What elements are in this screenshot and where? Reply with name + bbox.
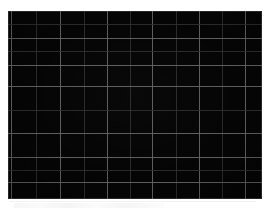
gridline-vertical-minor (222, 11, 223, 199)
gridline-horizontal-major (8, 38, 262, 39)
bottom-margin-smudge (14, 203, 164, 208)
gridline-horizontal-major (8, 157, 262, 158)
gridline-horizontal-major (8, 86, 262, 87)
gridline-vertical-minor (130, 11, 131, 199)
gridline-vertical-major (199, 11, 200, 199)
gridline-horizontal-major (8, 65, 262, 66)
gridline-horizontal-minor (8, 170, 262, 171)
bottom-edge-line (10, 201, 256, 202)
gridline-horizontal-major (8, 182, 262, 183)
gridline-vertical-minor (36, 11, 37, 199)
grid-panel[interactable] (8, 11, 262, 199)
gridline-vertical-major (245, 11, 246, 199)
gridline-vertical-major (152, 11, 153, 199)
gridline-vertical-minor (84, 11, 85, 199)
gridline-horizontal-major (8, 133, 262, 134)
gridline-horizontal-minor (8, 24, 262, 25)
screenshot-root (0, 0, 269, 212)
gridline-horizontal-minor (8, 51, 262, 52)
panel-vignette (8, 11, 262, 199)
gridline-vertical-major (11, 11, 12, 199)
gridline-vertical-major (107, 11, 108, 199)
gridline-vertical-minor (176, 11, 177, 199)
gridline-vertical-major (60, 11, 61, 199)
gridline-horizontal-minor (8, 110, 262, 111)
